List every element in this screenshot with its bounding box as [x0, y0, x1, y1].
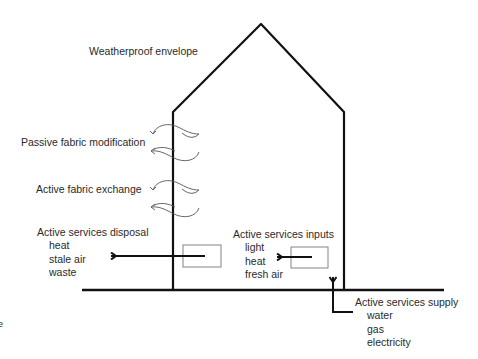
inputs-item: heat	[233, 255, 334, 268]
passive-fabric-label: Passive fabric modification	[21, 136, 145, 149]
inputs-label-group: Active services inputs light heat fresh …	[233, 228, 334, 281]
disposal-item: stale air	[37, 253, 148, 266]
active-fabric-label: Active fabric exchange	[36, 183, 142, 196]
disposal-item: heat	[37, 239, 148, 252]
disposal-title: Active services disposal	[37, 226, 148, 238]
building-services-diagram: Weatherproof envelope Passive fabric mod…	[0, 0, 478, 359]
passive-exchange-arrows-icon	[150, 125, 199, 161]
inputs-title: Active services inputs	[233, 228, 334, 240]
disposal-label-group: Active services disposal heat stale air …	[37, 226, 148, 279]
inputs-item: fresh air	[233, 268, 334, 281]
active-exchange-arrows-icon	[150, 181, 199, 217]
supply-title: Active services supply	[355, 296, 458, 308]
cropped-text-fragment: e	[0, 318, 3, 331]
supply-item: gas	[355, 323, 458, 336]
supply-item: water	[355, 309, 458, 322]
supply-item: electricity	[355, 336, 458, 349]
weatherproof-envelope-label: Weatherproof envelope	[89, 45, 198, 58]
supply-label-group: Active services supply water gas electri…	[355, 296, 458, 349]
disposal-item: waste	[37, 266, 148, 279]
inputs-item: light	[233, 241, 334, 254]
